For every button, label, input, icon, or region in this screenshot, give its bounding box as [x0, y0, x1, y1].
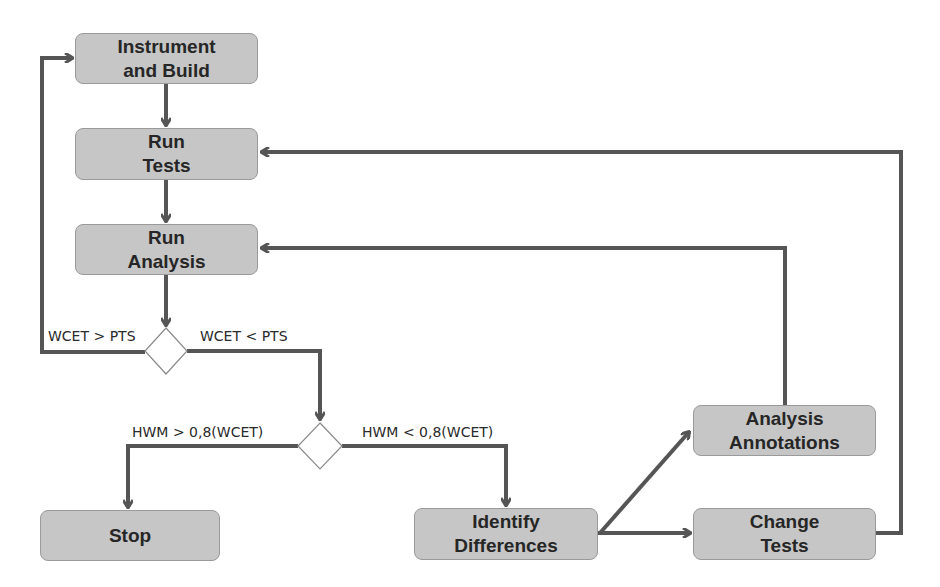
node-analysis-annotations: Analysis Annotations	[693, 405, 876, 456]
node-text: Analysis	[127, 250, 205, 274]
flowchart-canvas	[0, 0, 940, 587]
node-run-tests: Run Tests	[75, 128, 258, 180]
node-change-tests: Change Tests	[693, 508, 876, 560]
node-text: Identify	[472, 510, 540, 534]
node-text: Analysis	[745, 407, 823, 431]
node-text: Differences	[454, 534, 558, 558]
arrow-annotations-to-run-analysis	[262, 248, 785, 405]
node-text: Instrument	[117, 35, 215, 59]
arrow-hwm-lt-to-identify	[342, 446, 506, 505]
edge-label-wcet-gt-pts: WCET > PTS	[48, 328, 136, 344]
node-stop: Stop	[40, 510, 220, 561]
node-text: Annotations	[729, 431, 840, 455]
node-text: Tests	[760, 534, 808, 558]
arrow-wcet-lt-pts	[187, 351, 320, 419]
decision-diamond-wcet-pts	[145, 328, 187, 374]
edge-label-wcet-lt-pts: WCET < PTS	[200, 328, 288, 344]
arrow-identify-to-annotations	[600, 432, 689, 533]
node-text: Run	[148, 130, 185, 154]
node-identify-differences: Identify Differences	[414, 508, 598, 560]
node-text: Change	[750, 510, 820, 534]
node-text: Run	[148, 226, 185, 250]
arrow-hwm-gt-to-stop	[128, 446, 298, 507]
node-instrument-and-build: Instrument and Build	[75, 33, 258, 84]
node-text: Stop	[109, 524, 151, 548]
node-text: Tests	[142, 154, 190, 178]
node-text: and Build	[123, 59, 210, 83]
arrow-wcet-gt-pts-loop	[42, 58, 145, 352]
decision-diamond-hwm-wcet	[298, 423, 342, 469]
arrow-change-tests-to-run-tests	[262, 152, 901, 533]
edge-label-hwm-gt-wcet: HWM > 0,8(WCET)	[132, 424, 263, 440]
edge-label-hwm-lt-wcet: HWM < 0,8(WCET)	[362, 424, 493, 440]
node-run-analysis: Run Analysis	[75, 224, 258, 275]
